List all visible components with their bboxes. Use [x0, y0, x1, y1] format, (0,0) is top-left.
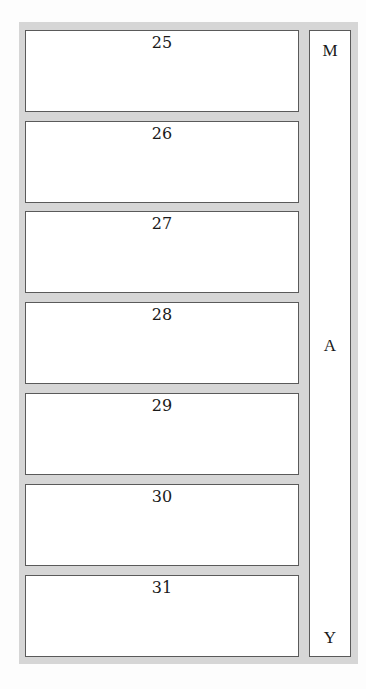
day-number: 29: [26, 396, 298, 416]
day-number: 27: [26, 214, 298, 234]
month-letter-bottom: Y: [310, 628, 350, 648]
month-column: M A Y: [309, 30, 351, 657]
day-cell-25[interactable]: 25: [25, 30, 299, 112]
month-letter-top: M: [310, 41, 350, 61]
day-cell-31[interactable]: 31: [25, 575, 299, 657]
day-cell-30[interactable]: 30: [25, 484, 299, 566]
day-number: 26: [26, 124, 298, 144]
day-number: 28: [26, 305, 298, 325]
day-number: 31: [26, 578, 298, 598]
day-cell-29[interactable]: 29: [25, 393, 299, 475]
day-cell-26[interactable]: 26: [25, 121, 299, 203]
day-number: 25: [26, 33, 298, 53]
day-cell-27[interactable]: 27: [25, 211, 299, 293]
day-cell-28[interactable]: 28: [25, 302, 299, 384]
month-letter-middle: A: [310, 336, 350, 356]
day-number: 30: [26, 487, 298, 507]
